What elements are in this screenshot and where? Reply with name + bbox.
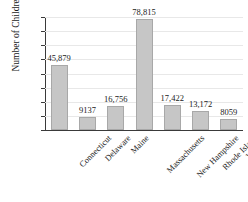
bar[interactable] [136,19,153,130]
bar[interactable] [51,65,68,130]
bar-chart: Number of Children 010,00020,00030,00040… [0,0,248,202]
y-axis-tick [41,88,45,89]
bar[interactable] [79,117,96,130]
chart-title [0,0,248,2]
y-axis-tick [41,130,45,131]
bar-value-label: 8059 [207,108,248,117]
y-axis-tick [41,17,45,18]
y-axis-tick [41,74,45,75]
y-axis-tick [41,102,45,103]
plot-area: 010,00020,00030,00040,00050,00060,00070,… [45,17,243,130]
y-axis-tick [41,31,45,32]
y-axis-tick [41,45,45,46]
bar-value-label: 16,756 [94,95,138,104]
x-axis-line [45,130,243,131]
bar-value-label: 45,879 [37,54,81,63]
bar-value-label: 9137 [65,106,109,115]
bar[interactable] [220,119,237,130]
y-axis-tick [41,116,45,117]
x-axis-category-label: Maine [128,133,150,155]
bar[interactable] [107,106,124,130]
y-axis-title: Number of Children [11,0,21,85]
bar[interactable] [164,105,181,130]
bar-value-label: 78,815 [122,8,166,17]
